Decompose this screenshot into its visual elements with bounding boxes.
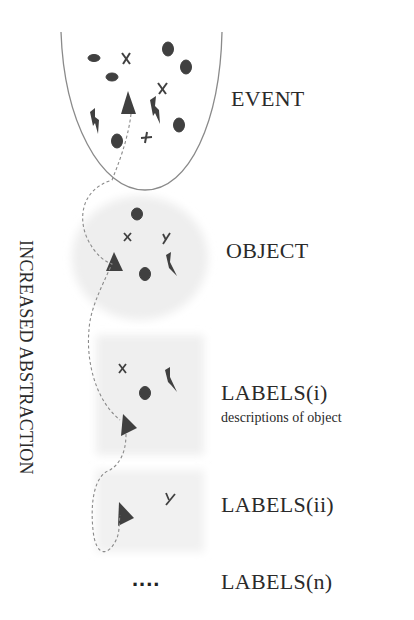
oval-icon [181, 60, 192, 74]
oval-icon [140, 387, 151, 400]
oval-icon [112, 134, 123, 148]
diagram-canvas [0, 0, 414, 620]
oval-icon [163, 42, 174, 56]
cross-plus-icon [141, 132, 152, 143]
cross-x-icon [122, 53, 130, 64]
oval-icon [174, 118, 185, 132]
event-boundary [61, 32, 222, 190]
event-shapes [88, 42, 192, 148]
level-label-labels-ii: LABELS(ii) [221, 492, 334, 518]
level-label-event: EVENT [231, 86, 305, 112]
level-label-labels-i: LABELS(i) [221, 380, 328, 406]
side-axis-label: INCREASED ABSTRACTION [12, 240, 36, 560]
lightning-icon [90, 108, 99, 134]
labels-ii-shaded-region [96, 470, 204, 552]
ellipse-icon [88, 55, 100, 62]
ellipse-icon [106, 73, 118, 81]
abstraction-diagram: EVENT OBJECT LABELS(i) descriptions of o… [0, 0, 414, 620]
level-label-labels-n: LABELS(n) [221, 569, 332, 595]
lightning-icon [150, 96, 160, 124]
level-sublabel-labels-i: descriptions of object [221, 410, 342, 426]
cross-x-icon [158, 83, 167, 94]
triangle-icon [121, 91, 136, 114]
oval-icon [140, 268, 151, 281]
ellipsis-marker: .... [132, 566, 160, 592]
increased-abstraction-label: INCREASED ABSTRACTION [15, 240, 36, 475]
oval-icon [132, 208, 143, 220]
level-label-object: OBJECT [226, 238, 308, 264]
